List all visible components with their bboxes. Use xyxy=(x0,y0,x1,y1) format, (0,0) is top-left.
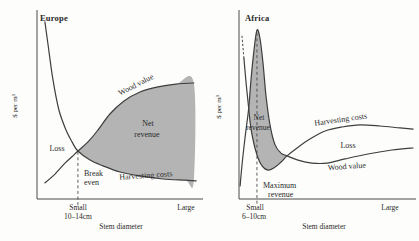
africa-harvesting-costs-dotted-segment xyxy=(242,36,244,58)
africa-tick-small: Small xyxy=(246,203,264,212)
africa-maximum-revenue-label-line2: revenue xyxy=(268,190,294,199)
africa-tick-large: Large xyxy=(381,203,399,212)
africa-tick-small-size: 6–10cm xyxy=(242,212,266,221)
europe-title: Europe xyxy=(40,13,68,23)
charts-svg: Europe $ per m³ Wood value Net revenue L… xyxy=(0,0,419,241)
europe-tick-large: Large xyxy=(177,203,195,212)
europe-break-even-label-line1: Break xyxy=(84,169,103,178)
europe-x-axis-label: Stem diameter xyxy=(99,222,143,231)
europe-loss-label: Loss xyxy=(49,144,64,153)
europe-net-revenue-label-line2: revenue xyxy=(134,130,160,139)
figure-stem-diameter-revenue: Europe $ per m³ Wood value Net revenue L… xyxy=(0,0,419,241)
europe-net-revenue-label-line1: Net xyxy=(142,119,154,128)
europe-tick-small: Small xyxy=(69,203,87,212)
africa-net-revenue-label-line1: Net xyxy=(254,113,266,122)
europe-chart: Europe $ per m³ Wood value Net revenue L… xyxy=(11,10,203,231)
africa-net-revenue-label-line2: revenue xyxy=(246,123,270,132)
africa-chart: Africa $ per m³ Net revenue Harvesting c… xyxy=(215,10,416,231)
africa-wood-value-label: Wood value xyxy=(327,161,366,173)
africa-title: Africa xyxy=(245,13,270,23)
africa-x-axis-label: Stem diameter xyxy=(302,222,346,231)
africa-maximum-revenue-label-line1: Maximum xyxy=(263,181,297,190)
africa-loss-label: Loss xyxy=(340,141,355,150)
europe-y-axis-label: $ per m³ xyxy=(11,94,19,117)
europe-break-even-label-line2: even xyxy=(84,178,99,187)
africa-y-axis-label: $ per m³ xyxy=(215,95,223,118)
europe-tick-small-size: 10–14cm xyxy=(64,212,92,221)
